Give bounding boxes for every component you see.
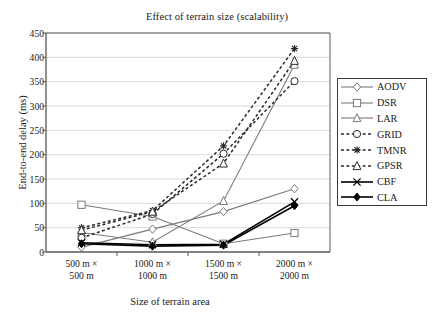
data-point-grid-3 (291, 78, 298, 85)
series-line-grid (82, 81, 295, 238)
legend-marker-aodv-icon (340, 80, 374, 94)
series-line-lar (82, 65, 295, 243)
legend-label-dsr: DSR (377, 97, 397, 108)
legend-label-grid: GRID (377, 129, 402, 140)
legend-marker-gpsr-icon (340, 159, 374, 173)
legend-item-cla[interactable]: CLA (338, 190, 426, 206)
data-point-dsr-3 (291, 229, 298, 236)
legend-marker-grid-icon (340, 127, 374, 141)
legend-label-aodv: AODV (377, 81, 406, 92)
legend-marker-lar-icon (340, 111, 374, 125)
legend-item-lar[interactable]: LAR (338, 111, 426, 127)
data-point-lar-2 (220, 197, 228, 205)
data-point-marker (354, 193, 360, 201)
legend-marker-tmnr-icon (340, 143, 374, 157)
legend-item-dsr[interactable]: DSR (338, 95, 426, 111)
chart-container: Effect of terrain size (scalability) End… (0, 0, 434, 321)
data-point-marker (353, 131, 360, 138)
legend-label-cbf: CBF (377, 176, 396, 187)
data-point-marker (353, 99, 360, 106)
legend-label-cla: CLA (377, 192, 397, 203)
legend-item-grid[interactable]: GRID (338, 126, 426, 142)
legend-marker-dsr-icon (340, 96, 374, 110)
chart-legend: AODVDSRLARGRIDTMNRGPSRCBFCLA (337, 78, 427, 206)
data-point-aodv-3 (291, 185, 298, 193)
series-line-cla (82, 206, 295, 246)
data-point-tmnr-3 (291, 45, 298, 52)
legend-item-tmnr[interactable]: TMNR (338, 142, 426, 158)
legend-item-cbf[interactable]: CBF (338, 174, 426, 190)
data-point-marker (353, 146, 360, 153)
series-line-tmnr (82, 49, 295, 228)
data-point-tmnr-2 (220, 142, 227, 149)
data-point-marker (353, 83, 360, 91)
legend-item-gpsr[interactable]: GPSR (338, 158, 426, 174)
data-point-aodv-2 (220, 207, 227, 215)
data-point-aodv-1 (149, 225, 156, 233)
legend-marker-cbf-icon (340, 175, 374, 189)
legend-label-tmnr: TMNR (377, 145, 406, 156)
legend-marker-cla-icon (340, 190, 374, 204)
legend-item-aodv[interactable]: AODV (338, 79, 426, 95)
data-point-grid-2 (220, 150, 227, 157)
series-line-gpsr (82, 61, 295, 230)
legend-label-gpsr: GPSR (377, 160, 402, 171)
data-point-dsr-0 (78, 201, 85, 208)
legend-label-lar: LAR (377, 113, 397, 124)
